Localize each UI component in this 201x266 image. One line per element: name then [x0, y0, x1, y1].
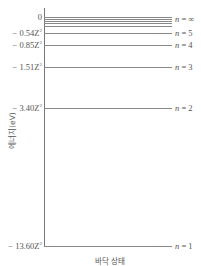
- n-label-2: n = 2: [175, 103, 193, 113]
- level-line-high: [44, 19, 172, 20]
- level-line-n6: [44, 26, 172, 27]
- energy-label-n1: − 13.60Z2: [8, 241, 42, 251]
- energy-label-n4: − 0.85Z2: [13, 40, 43, 50]
- energy-label-n3: − 1.51Z2: [13, 62, 43, 72]
- energy-axis: [44, 8, 45, 247]
- n-label-3: n = 3: [175, 62, 193, 72]
- level-line-high: [44, 23, 172, 24]
- level-line-high: [44, 21, 172, 22]
- energy-label-n2: − 3.40Z2: [13, 103, 43, 113]
- ground-state-label: 바닥 상태: [70, 255, 150, 266]
- level-line-n1: [44, 246, 172, 247]
- energy-label-n5: − 0.54Z2: [13, 28, 43, 38]
- level-line-n3: [44, 67, 172, 68]
- level-line-n5: [44, 33, 172, 34]
- energy-label-zero: 0: [38, 12, 42, 22]
- level-line-n4: [44, 45, 172, 46]
- level-line-n2: [44, 108, 172, 109]
- n-label-5: n = 5: [175, 28, 193, 38]
- n-label-1: n = 1: [175, 241, 193, 251]
- y-axis-label: 에너지(eV): [6, 106, 17, 156]
- n-label-4: n = 4: [175, 40, 193, 50]
- level-line-infinity: [44, 17, 172, 18]
- n-label-infinity: n = ∞: [175, 14, 194, 24]
